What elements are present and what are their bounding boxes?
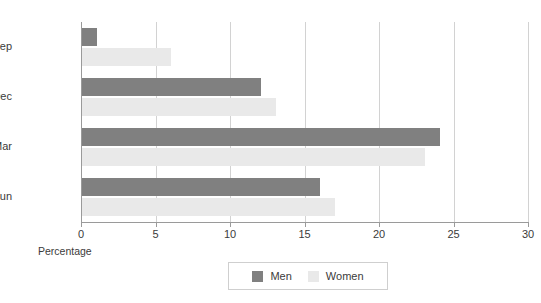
category-label-jul-to-sep: Jul to Sep [0, 40, 12, 52]
x-tick-mark-25 [454, 222, 455, 227]
bar-women-jan-to-mar [82, 148, 425, 166]
x-tick-label-10: 10 [224, 228, 236, 240]
category-label-jan-to-mar: Jan to Mar [0, 140, 12, 152]
bar-women-apr-to-jun [82, 198, 335, 216]
chart-legend: Men Women [228, 262, 388, 290]
legend-item-men: Men [252, 270, 291, 282]
x-tick-label-0: 0 [78, 228, 84, 240]
legend-swatch-women-icon [308, 271, 319, 282]
gridline-30 [528, 22, 529, 222]
x-tick-label-5: 5 [152, 228, 158, 240]
legend-swatch-men-icon [252, 271, 263, 282]
x-tick-mark-5 [156, 222, 157, 227]
x-axis-title: Percentage [38, 245, 92, 257]
x-tick-label-30: 30 [522, 228, 534, 240]
bar-women-jul-to-sep [82, 48, 171, 66]
x-tick-label-25: 25 [447, 228, 459, 240]
x-tick-mark-15 [305, 222, 306, 227]
bar-men-jan-to-mar [82, 128, 440, 146]
y-axis-line [81, 22, 82, 222]
bar-women-oct-to-dec [82, 98, 276, 116]
x-tick-mark-10 [230, 222, 231, 227]
x-tick-mark-0 [81, 222, 82, 227]
bar-men-oct-to-dec [82, 78, 261, 96]
legend-label-women: Women [326, 270, 364, 282]
bar-chart: 051015202530 Jul to SepOct to DecJan to … [0, 0, 541, 303]
gridline-20 [379, 22, 380, 222]
category-label-oct-to-dec: Oct to Dec [0, 90, 12, 102]
bar-men-apr-to-jun [82, 178, 320, 196]
x-tick-mark-20 [379, 222, 380, 227]
plot-area [81, 22, 528, 222]
legend-label-men: Men [270, 270, 291, 282]
bar-men-jul-to-sep [82, 28, 97, 46]
x-tick-label-20: 20 [373, 228, 385, 240]
gridline-25 [454, 22, 455, 222]
category-label-apr-to-jun: Apr to Jun [0, 190, 12, 202]
legend-item-women: Women [308, 270, 364, 282]
x-tick-mark-30 [528, 222, 529, 227]
x-tick-label-15: 15 [298, 228, 310, 240]
